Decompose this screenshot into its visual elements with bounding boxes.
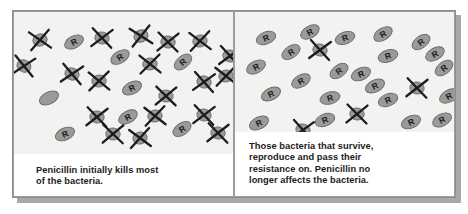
kill-cross-icon xyxy=(13,56,35,77)
figure-frame: RRRRRRR Penicillin initially kills most … xyxy=(12,10,456,198)
bacterium-body xyxy=(37,88,61,108)
penicillin-resistance-figure: RRRRRRR Penicillin initially kills most … xyxy=(0,0,468,214)
panel-after-penicillin: RRRRRRRRRRRRRRRRRRRRRR Those bacteria th… xyxy=(234,11,455,197)
panel-before-penicillin: RRRRRRR Penicillin initially kills most … xyxy=(13,11,234,197)
caption-after: Those bacteria that survive, reproduce a… xyxy=(235,132,454,196)
caption-before: Penicillin initially kills most of the b… xyxy=(14,154,233,196)
